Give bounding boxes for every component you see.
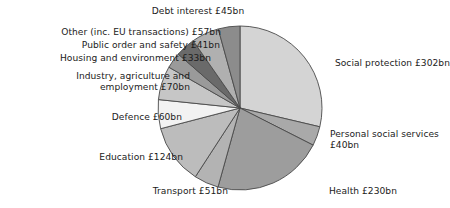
label-defence: Defence £60bn (72, 112, 182, 123)
label-health: Health £230bn (287, 186, 397, 197)
label-other-eu-transactions: Other (inc. EU transactions) £57bn (31, 27, 221, 38)
label-debt-interest: Debt interest £45bn (124, 6, 272, 17)
label-public-order-and-safety: Public order and safety £41bn (42, 40, 220, 51)
label-social-protection: Social protection £302bn (318, 58, 450, 69)
label-education: Education £124bn (63, 152, 183, 163)
label-industry-agriculture-employment-line1: Industry, agriculture and (40, 71, 190, 82)
label-personal-social-services-line1: Personal social services (330, 129, 448, 140)
label-industry-agriculture-employment-line2: employment £70bn (40, 82, 190, 93)
label-transport: Transport £51bn (108, 186, 228, 197)
label-personal-social-services-line2: £40bn (330, 140, 448, 151)
label-housing-and-environment: Housing and environment £33bn (17, 53, 211, 64)
